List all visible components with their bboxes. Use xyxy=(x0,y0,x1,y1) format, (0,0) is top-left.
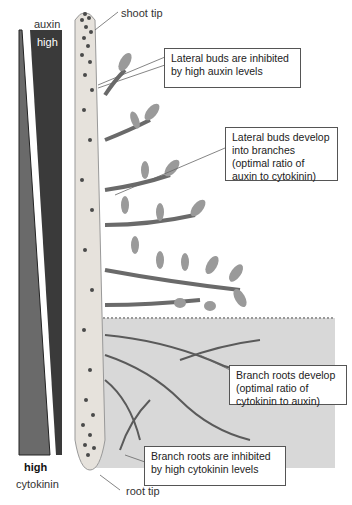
callout-roots-develop: Branch roots develop (optimal ratio of c… xyxy=(229,365,347,405)
shoot-tip-label: shoot tip xyxy=(121,7,163,19)
auxin-high-label: high xyxy=(37,36,58,48)
root-tip-label: root tip xyxy=(126,485,160,497)
cytokinin-high-label: high xyxy=(24,461,47,473)
auxin-label: auxin xyxy=(34,18,60,30)
branches xyxy=(105,70,240,305)
cytokinin-label: cytokinin xyxy=(16,478,59,490)
callout-buds-develop: Lateral buds develop into branches (opti… xyxy=(225,127,338,181)
stem xyxy=(75,13,105,471)
callout-roots-inhibited: Branch roots are inhibited by high cytok… xyxy=(144,446,286,486)
callout-buds-inhibited: Lateral buds are inhibited by high auxin… xyxy=(164,48,301,88)
